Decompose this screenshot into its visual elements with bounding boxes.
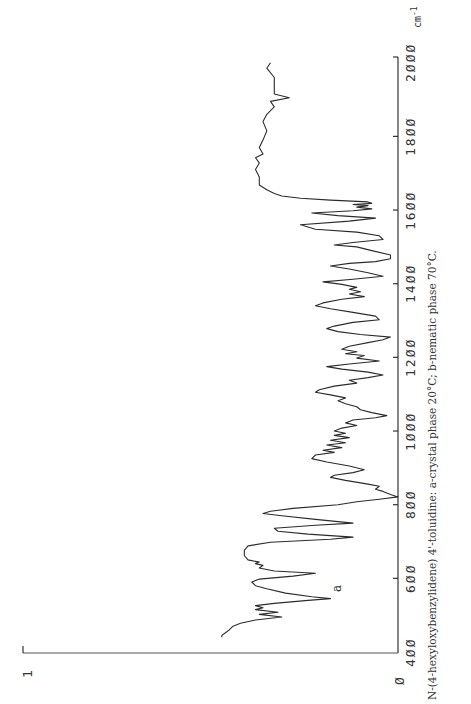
wavenumber-ticks: [393, 136, 398, 578]
wavenumber-tick-label: 4ØØ: [403, 637, 418, 666]
wavenumber-tick-label: 16ØØ: [403, 190, 418, 229]
wavenumber-tick-label: 18ØØ: [403, 117, 418, 156]
spectrum-plot: [0, 0, 471, 704]
wavenumber-tick-label: 6ØØ: [403, 564, 418, 593]
unit-text: cm: [412, 16, 423, 28]
y-tick-label-0: Ø: [392, 677, 407, 685]
unit-label: cm-1: [410, 6, 423, 28]
wavenumber-tick-label: 12ØØ: [403, 338, 418, 377]
figure-caption: N-(4-hexyloxybenzylidene) 4'-toluidine: …: [426, 250, 438, 700]
y-tick-label-1: 1: [20, 670, 35, 678]
wavenumber-tick-label: 2ØØØ: [403, 43, 418, 82]
spectrum-trace-a: [222, 63, 398, 638]
unit-exponent: -1: [410, 6, 419, 16]
wavenumber-tick-label: 1ØØØ: [403, 411, 418, 450]
wavenumber-tick-label: 8ØØ: [403, 490, 418, 519]
wavenumber-tick-label: 14ØØ: [403, 264, 418, 303]
series-label-a: a: [330, 585, 344, 592]
